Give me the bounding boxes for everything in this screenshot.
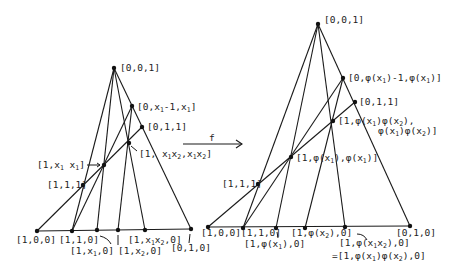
left-point-1x1x2x1x2 <box>127 141 131 145</box>
right-label-1phx10: [1,φ(x1),0] <box>244 238 305 251</box>
right-label-1phx1x20-line1: [1,φ(x1x2),0] <box>339 237 410 250</box>
left-label-110: [1,1,0] <box>59 234 99 245</box>
left-point-010 <box>189 227 193 231</box>
left-point-1x1x1 <box>102 163 106 167</box>
left-point-110 <box>70 229 74 233</box>
left-baseline <box>37 229 191 231</box>
right-ray-apex-1phx10 <box>276 24 318 228</box>
right-label-010: [0,1,0] <box>396 227 436 238</box>
left-label-011: [0,1,1] <box>147 121 187 132</box>
left-ray-apex-110 <box>72 68 114 231</box>
right-label-100: [1,0,0] <box>201 227 241 238</box>
left-label-111: [1,1,1] <box>47 179 87 190</box>
left-label-1x1x1: [1,x1 x1] <box>37 159 85 172</box>
right-label-1phx1x20-line2: =[1,φ(x1)φ(x2),0] <box>332 250 426 263</box>
left-point-100 <box>35 229 39 233</box>
right-label-001: [0,0,1] <box>324 14 364 25</box>
right-label-1phx1phx1: [1,φ(x1),φ(x1)] <box>296 152 378 165</box>
map-label: f <box>209 132 215 143</box>
right-label-110: [1,1,0] <box>241 227 281 238</box>
left-figure: [0,0,1] [0,x1-1,x1] [0,1,1] [1, x1x2,x1x… <box>16 62 212 258</box>
left-label-1x20: [1,x2,0] <box>118 245 162 258</box>
left-point-1x20 <box>116 228 120 232</box>
projective-map-diagram: [0,0,1] [0,x1-1,x1] [0,1,1] [1, x1x2,x1x… <box>0 0 454 278</box>
map-arrow-f: f <box>183 132 242 148</box>
left-label-0x1m1x1: [0,x1-1,x1] <box>137 101 196 114</box>
left-arrow-1x1x2 <box>131 146 137 151</box>
left-label-1x10: [1,x1,0] <box>70 245 114 258</box>
left-label-001: [0,0,1] <box>120 62 160 73</box>
right-label-111: [1,1,1] <box>222 178 262 189</box>
left-point-0x1m1x1 <box>130 104 134 108</box>
right-figure: [0,0,1] [0,φ(x1)-1,φ(x1)] [0,1,1] [1,φ(x… <box>201 14 442 263</box>
right-ray-apex-110 <box>243 24 318 228</box>
left-point-001 <box>112 66 116 70</box>
right-label-0phx1: [0,φ(x1)-1,φ(x1)] <box>348 72 442 85</box>
right-point-001 <box>316 22 320 26</box>
right-point-1phx1phx1 <box>289 155 293 159</box>
right-point-1phph <box>331 119 335 123</box>
left-point-011 <box>140 125 144 129</box>
right-label-1phph-line2: φ(x1)φ(x2)] <box>378 125 437 138</box>
left-point-1x10 <box>95 228 99 232</box>
right-label-011: [0,1,1] <box>359 96 399 107</box>
left-label-010: [0,1,0] <box>171 242 211 253</box>
left-label-100: [1,0,0] <box>16 234 56 245</box>
left-label-1x1x2x1x2: [1, x1x2,x1x2] <box>139 148 212 161</box>
right-point-0phx1 <box>341 76 345 80</box>
left-point-1x1x20 <box>143 228 147 232</box>
right-point-011 <box>353 100 357 104</box>
left-arrow-1x10 <box>100 236 111 244</box>
